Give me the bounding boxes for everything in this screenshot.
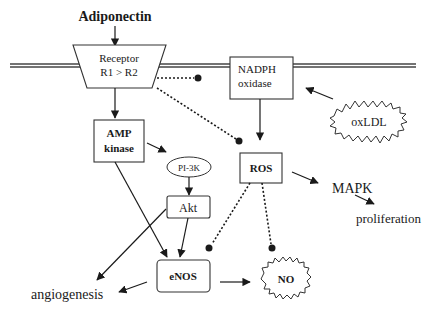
arrow-oxldl-nadph	[306, 88, 333, 99]
arrow-akt-enos	[180, 218, 188, 257]
svg-text:R1 > R2: R1 > R2	[100, 66, 137, 78]
enos-node: eNOS	[157, 260, 210, 292]
pi3k-node: PI-3K	[167, 157, 211, 177]
arrow-enos-angiogenesis	[119, 282, 147, 292]
arrow-amp-enos	[115, 162, 167, 257]
inhibit-receptor-nadph	[157, 75, 202, 82]
cell-membrane	[10, 64, 416, 67]
svg-text:Akt: Akt	[179, 201, 198, 215]
arrow-ros-mapk	[292, 172, 318, 183]
no-node: NO	[261, 257, 311, 299]
adiponectin-pathway-diagram: Adiponectin Receptor R1 > R2 NADPH oxida…	[0, 0, 434, 317]
svg-text:kinase: kinase	[104, 142, 134, 154]
svg-text:NO: NO	[278, 273, 295, 285]
inhibit-ros-no	[262, 183, 276, 252]
inhibit-ros-enos	[206, 183, 251, 252]
oxldl-node: oxLDL	[330, 101, 407, 143]
svg-text:oxLDL: oxLDL	[351, 115, 386, 129]
adiponectin-label: Adiponectin	[78, 9, 151, 24]
mapk-label: MAPK	[332, 181, 372, 196]
svg-text:AMP: AMP	[106, 127, 131, 139]
arrow-amp-pi3k	[147, 143, 166, 152]
angiogenesis-label: angiogenesis	[31, 287, 103, 302]
svg-text:ROS: ROS	[250, 162, 273, 174]
nadph-oxidase-node: NADPH oxidase	[230, 57, 293, 99]
proliferation-label: proliferation	[356, 211, 421, 226]
amp-kinase-node: AMP kinase	[94, 120, 144, 162]
arrow-akt-angiogenesis	[97, 209, 166, 280]
svg-text:Receptor: Receptor	[99, 52, 139, 64]
svg-text:PI-3K: PI-3K	[178, 163, 200, 173]
svg-text:eNOS: eNOS	[169, 270, 197, 282]
arrow-mapk-proliferation	[355, 195, 374, 204]
svg-text:NADPH: NADPH	[238, 63, 276, 75]
svg-text:oxidase: oxidase	[238, 77, 272, 89]
ros-node: ROS	[240, 153, 282, 183]
akt-node: Akt	[167, 196, 210, 218]
receptor-node: Receptor R1 > R2	[73, 45, 166, 88]
